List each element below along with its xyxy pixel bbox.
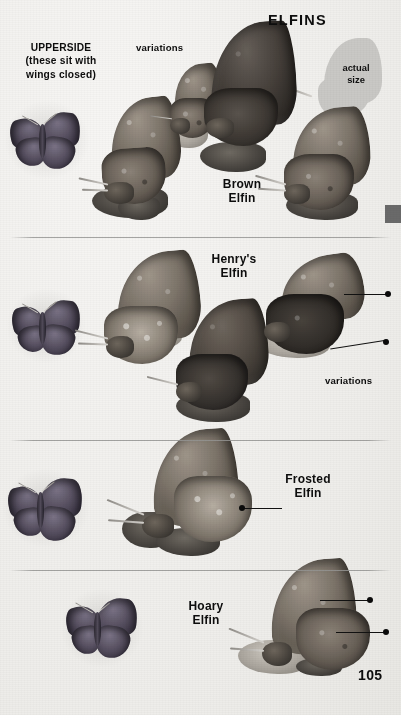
leader-line-frosted [240, 504, 282, 511]
upperside-caption: UPPERSIDE (these sit with wings closed) [6, 41, 116, 81]
leader-dot [385, 291, 391, 297]
page-number: 105 [358, 668, 383, 684]
thorax [104, 182, 134, 204]
thorax [206, 118, 234, 138]
butterfly-upperside-frosted-elfin [6, 472, 86, 546]
antenna-2 [82, 189, 108, 192]
leader-stroke [344, 294, 390, 295]
species-label-henrys-elfin: Henry's Elfin [196, 253, 272, 281]
body [39, 312, 46, 344]
species-label-frosted-elfin: Frosted Elfin [268, 473, 348, 501]
leader-dot [367, 597, 373, 603]
leader-line-hoary-2 [336, 628, 388, 635]
field-guide-page: ELFINS UPPERSIDE (these sit with wings c… [0, 0, 401, 715]
body [37, 492, 44, 528]
leader-line-hoary-1 [320, 596, 372, 603]
leader-stroke [240, 508, 282, 509]
thorax [284, 184, 310, 204]
actual-size-caption: actual size [330, 62, 382, 86]
butterfly-upperside-henrys-elfin [10, 292, 84, 362]
thorax [262, 642, 292, 666]
thorax [176, 382, 202, 402]
thorax [142, 514, 174, 538]
thorax [264, 322, 290, 342]
hindwing [296, 608, 370, 670]
body [39, 124, 46, 158]
page-title: ELFINS [268, 12, 327, 28]
butterfly-underside-brown-elfin-right [278, 106, 388, 216]
leader-dot [383, 629, 389, 635]
edge-index-tab [385, 205, 401, 223]
thorax [170, 118, 190, 134]
thorax [106, 336, 134, 358]
leader-line-henrys-1 [344, 290, 390, 297]
butterfly-upperside-brown-elfin [8, 104, 84, 176]
section-divider-1 [10, 237, 391, 238]
antenna-1 [107, 499, 145, 516]
variations-label-top: variations [136, 43, 183, 54]
butterfly-underside-frosted-elfin [128, 430, 268, 564]
leader-stroke [320, 600, 372, 601]
species-label-hoary-elfin: Hoary Elfin [168, 600, 244, 628]
leader-dot [383, 339, 389, 345]
section-divider-2 [10, 440, 391, 441]
leader-stroke [336, 632, 388, 633]
antenna-1 [147, 376, 178, 385]
body [94, 612, 101, 646]
leader-line-henrys-2 [330, 340, 388, 347]
species-label-brown-elfin: Brown Elfin [206, 178, 278, 206]
butterfly-upperside-hoary-elfin [64, 592, 140, 664]
section-divider-3 [10, 570, 391, 571]
antenna-1 [228, 628, 264, 644]
variations-label-henrys: variations [325, 376, 372, 387]
leader-dot [239, 505, 245, 511]
